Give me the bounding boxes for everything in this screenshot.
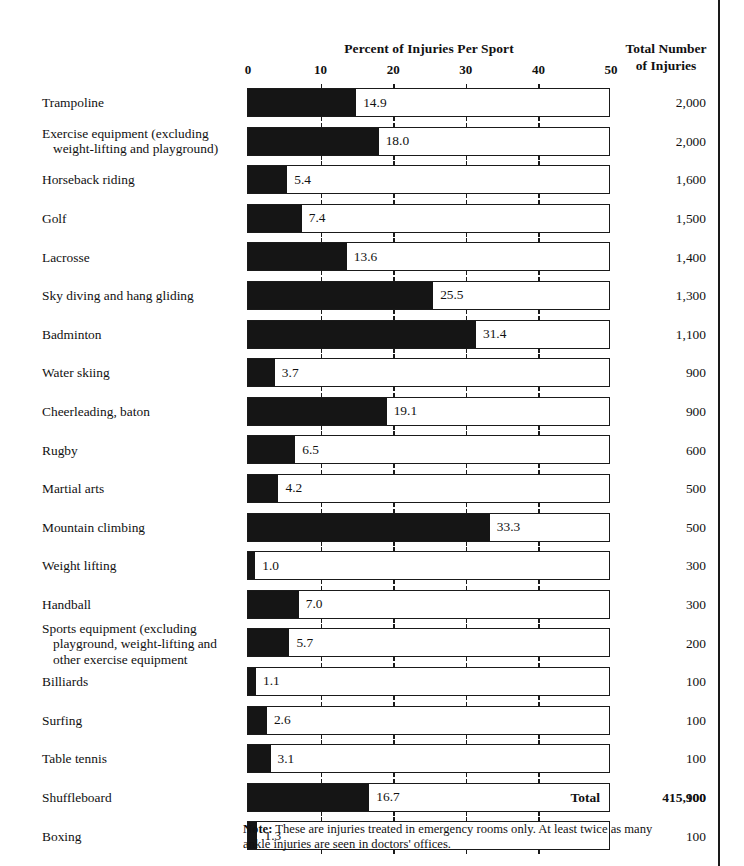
- total-injuries-value: 1,100: [614, 327, 706, 343]
- axis-tick-mark: [393, 238, 394, 243]
- totals-header-line1: Total Number: [614, 40, 718, 57]
- axis-tick-mark: [393, 541, 394, 546]
- axis-tick-mark: [466, 161, 467, 166]
- axis-tick-mark: [466, 431, 467, 436]
- x-axis-tick-20: 20: [387, 62, 400, 78]
- x-axis-tick-10: 10: [314, 62, 327, 78]
- axis-tick-mark: [466, 393, 467, 398]
- axis-tick-mark: [321, 116, 322, 121]
- chart-row: Golf7.41,500: [0, 200, 718, 239]
- bar-fill: [248, 668, 256, 695]
- chart-row: Trampoline14.92,000: [0, 84, 718, 123]
- axis-tick-mark: [393, 695, 394, 700]
- axis-tick-mark: [393, 624, 394, 629]
- axis-tick-mark: [538, 541, 539, 546]
- category-label-line1: Mountain climbing: [42, 520, 145, 535]
- axis-tick-mark: [393, 431, 394, 436]
- axis-tick-mark: [466, 579, 467, 584]
- total-injuries-value: 500: [614, 481, 706, 497]
- axis-tick-mark: [321, 772, 322, 777]
- axis-tick-mark: [538, 277, 539, 282]
- axis-tick-mark: [321, 579, 322, 584]
- axis-tick-mark: [466, 656, 467, 661]
- bar-value-label: 1.1: [263, 673, 280, 689]
- total-injuries-value: 100: [614, 751, 706, 767]
- chart-row: Weight lifting1.0300: [0, 547, 718, 586]
- chart-row: Sports equipment (excludingplayground, w…: [0, 624, 718, 663]
- axis-tick-mark: [393, 232, 394, 237]
- total-injuries-value: 300: [614, 558, 706, 574]
- axis-tick-mark: [466, 470, 467, 475]
- bar-fill: [248, 552, 255, 579]
- category-label: Cheerleading, baton: [42, 404, 242, 420]
- note-text: These are injuries treated in emergency …: [243, 822, 652, 851]
- axis-tick-mark: [393, 663, 394, 668]
- bar-value-label: 14.9: [363, 95, 386, 111]
- axis-tick-mark: [538, 354, 539, 359]
- axis-tick-mark: [538, 84, 539, 89]
- axis-tick-mark: [538, 348, 539, 353]
- chart-row: Exercise equipment (excludingweight-lift…: [0, 123, 718, 162]
- axis-tick-mark: [466, 84, 467, 89]
- bar-track: 18.0: [247, 127, 610, 156]
- category-label-line1: Cheerleading, baton: [42, 404, 150, 419]
- axis-tick-mark: [538, 393, 539, 398]
- axis-tick-mark: [538, 309, 539, 314]
- axis-tick-mark: [321, 84, 322, 89]
- axis-tick-mark: [466, 123, 467, 128]
- category-label: Weight lifting: [42, 559, 242, 575]
- category-label: Exercise equipment (excludingweight-lift…: [42, 126, 242, 157]
- bar-track: 13.6: [247, 242, 610, 271]
- axis-tick-mark: [393, 586, 394, 591]
- bar-value-label: 5.7: [296, 635, 313, 651]
- category-label: Trampoline: [42, 96, 242, 112]
- chart-row: Surfing2.6100: [0, 702, 718, 741]
- category-label-line1: Rugby: [42, 443, 78, 458]
- category-label: Badminton: [42, 327, 242, 343]
- category-label: Horseback riding: [42, 173, 242, 189]
- totals-column-header: Total Number of Injuries: [614, 40, 718, 74]
- axis-tick-mark: [466, 772, 467, 777]
- bar-value-label: 6.5: [302, 442, 319, 458]
- axis-tick-mark: [466, 586, 467, 591]
- axis-tick-mark: [393, 354, 394, 359]
- total-injuries-value: 300: [614, 597, 706, 613]
- axis-tick-mark: [466, 463, 467, 468]
- axis-tick-mark: [393, 161, 394, 166]
- axis-tick-mark: [393, 393, 394, 398]
- axis-tick-mark: [466, 270, 467, 275]
- axis-tick-mark: [538, 779, 539, 784]
- total-injuries-value: 1,300: [614, 288, 706, 304]
- axis-tick-mark: [466, 277, 467, 282]
- bar-fill: [248, 475, 278, 502]
- axis-tick-mark: [321, 740, 322, 745]
- axis-tick-mark: [466, 316, 467, 321]
- bar-track: 1.1: [247, 667, 610, 696]
- axis-tick-mark: [393, 463, 394, 468]
- bar-value-label: 1.0: [262, 558, 279, 574]
- category-label: Lacrosse: [42, 250, 242, 266]
- axis-tick-mark: [538, 579, 539, 584]
- category-label-line1: Golf: [42, 211, 67, 226]
- axis-tick-mark: [538, 695, 539, 700]
- bar-fill: [248, 514, 490, 541]
- axis-tick-mark: [466, 734, 467, 739]
- axis-tick-mark: [538, 431, 539, 436]
- axis-tick-mark: [321, 316, 322, 321]
- axis-tick-mark: [538, 624, 539, 629]
- bar-fill: [248, 128, 379, 155]
- bar-value-label: 19.1: [394, 403, 417, 419]
- total-injuries-value: 100: [614, 713, 706, 729]
- chart-row: Martial arts4.2500: [0, 470, 718, 509]
- axis-tick-mark: [538, 425, 539, 430]
- axis-tick-mark: [538, 470, 539, 475]
- axis-tick-mark: [538, 386, 539, 391]
- bar-track: 3.1: [247, 744, 610, 773]
- axis-tick-mark: [538, 232, 539, 237]
- category-label: Boxing: [42, 829, 242, 845]
- bar-track: 3.7: [247, 358, 610, 387]
- category-label: Handball: [42, 597, 242, 613]
- axis-tick-mark: [321, 277, 322, 282]
- axis-tick-mark: [393, 618, 394, 623]
- bar-value-label: 3.7: [282, 365, 299, 381]
